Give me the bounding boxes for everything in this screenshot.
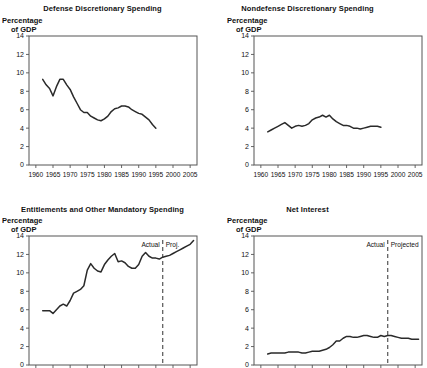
x-axis-tick-label: 1990 [131,171,146,178]
line-chart: 02468101214ActualProj. [0,236,203,368]
y-axis-title: Percentage of GDP [2,16,42,34]
chart-title: Net Interest [205,205,410,214]
chart-panel-defense-discretionary: Defense Discretionary Spending Percentag… [0,0,205,190]
y-axis-tick-label: 14 [16,32,24,39]
x-axis-tick-label: 1975 [305,171,320,178]
y-axis-tick-label: 8 [245,88,249,95]
x-axis-tick-label: 2000 [391,171,406,178]
x-axis-tick-label: 1985 [339,171,354,178]
data-series-line [43,79,156,128]
x-axis-tick-label: 1980 [97,171,112,178]
y-axis-tick-label: 8 [20,288,24,295]
x-axis-tick-label: 2000 [166,171,181,178]
chart-title: Entitlements and Other Mandatory Spendin… [0,205,205,214]
chart-panel-entitlements-mandatory: Entitlements and Other Mandatory Spendin… [0,190,205,368]
y-axis-tick-label: 8 [20,88,24,95]
x-axis-tick-label: 1980 [322,171,337,178]
x-axis-tick-label: 1985 [114,171,129,178]
y-axis-tick-label: 4 [20,125,24,132]
y-axis-tick-label: 0 [245,161,249,168]
y-axis-tick-label: 10 [241,269,249,276]
y-axis-tick-label: 10 [16,69,24,76]
projected-label: Projected [391,241,419,249]
y-axis-tick-label: 0 [20,161,24,168]
chart-panel-net-interest: Net Interest Percentage of GDP 024681012… [205,190,410,368]
y-axis-tick-label: 2 [20,143,24,150]
y-axis-title: Percentage of GDP [227,16,267,34]
data-series-line [43,241,194,314]
y-axis-tick-label: 6 [245,306,249,313]
plot-frame [254,236,422,365]
y-axis-tick-label: 12 [16,251,24,258]
plot-area: 02468101214ActualProjected [225,236,427,368]
y-axis-tick-label: 12 [241,251,249,258]
x-axis-tick-label: 1965 [46,171,61,178]
plot-frame [254,36,422,165]
x-axis-tick-label: 1965 [271,171,286,178]
x-axis-tick-label: 1990 [356,171,371,178]
x-axis-tick-label: 2005 [183,171,198,178]
y-axis-title-line1: Percentage [2,216,42,225]
projected-label: Proj. [166,241,180,249]
y-axis-tick-label: 2 [20,343,24,350]
y-axis-tick-label: 4 [20,325,24,332]
x-axis-tick-label: 1975 [80,171,95,178]
plot-area: 0246810121419601965197019751980198519901… [0,36,203,189]
plot-frame [29,36,197,165]
y-axis-tick-label: 6 [20,106,24,113]
data-series-line [268,336,419,354]
y-axis-tick-label: 14 [241,232,249,239]
y-axis-tick-label: 4 [245,325,249,332]
x-axis-tick-label: 1995 [149,171,164,178]
chart-title: Nondefense Discretionary Spending [205,4,410,13]
x-axis-tick-label: 1960 [254,171,269,178]
y-axis-tick-label: 6 [245,106,249,113]
x-axis-tick-label: 1960 [29,171,44,178]
line-chart: 0246810121419601965197019751980198519901… [0,36,203,189]
y-axis-tick-label: 2 [245,143,249,150]
x-axis-tick-label: 1970 [63,171,78,178]
plot-area: 02468101214ActualProj. [0,236,203,368]
actual-label: Actual [366,241,385,248]
y-axis-title-line1: Percentage [227,16,267,25]
y-axis-tick-label: 14 [16,232,24,239]
y-axis-tick-label: 0 [20,361,24,368]
y-axis-tick-label: 2 [245,343,249,350]
y-axis-tick-label: 0 [245,361,249,368]
y-axis-title-line1: Percentage [227,216,267,225]
line-chart: 02468101214ActualProjected [225,236,427,368]
y-axis-tick-label: 4 [245,125,249,132]
y-axis-tick-label: 10 [241,69,249,76]
chart-title: Defense Discretionary Spending [0,4,205,13]
actual-label: Actual [141,241,160,248]
y-axis-tick-label: 8 [245,288,249,295]
y-axis-tick-label: 12 [241,51,249,58]
y-axis-title: Percentage of GDP [227,216,267,234]
x-axis-tick-label: 1970 [288,171,303,178]
y-axis-title: Percentage of GDP [2,216,42,234]
y-axis-title-line1: Percentage [2,16,42,25]
y-axis-tick-label: 14 [241,32,249,39]
x-axis-tick-label: 1995 [374,171,389,178]
y-axis-tick-label: 6 [20,306,24,313]
line-chart: 0246810121419601965197019751980198519901… [225,36,427,189]
y-axis-tick-label: 10 [16,269,24,276]
data-series-line [268,115,381,132]
y-axis-tick-label: 12 [16,51,24,58]
plot-area: 0246810121419601965197019751980198519901… [225,36,427,189]
x-axis-tick-label: 2005 [408,171,423,178]
chart-panel-nondefense-discretionary: Nondefense Discretionary Spending Percen… [205,0,410,190]
